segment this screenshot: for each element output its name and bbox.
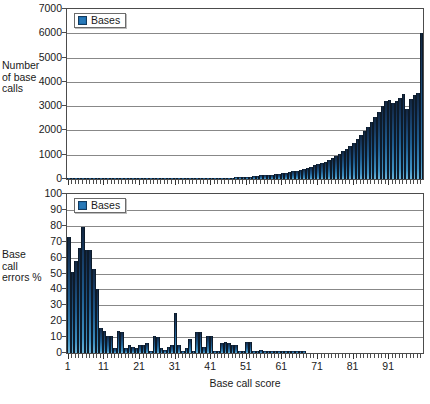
x-axis-tick-mark [363, 354, 364, 358]
y-axis-tick-labels-bottom: 0102030405060708090100 [28, 193, 62, 354]
x-axis-tick-mark [239, 354, 240, 358]
x-axis-tick-mark [271, 180, 272, 184]
x-axis-tick-mark [253, 180, 254, 184]
x-axis-tick-mark [96, 180, 97, 184]
x-axis-ticks-bottom [66, 354, 424, 359]
x-axis-tick-mark [121, 354, 122, 358]
legend-swatch-icon-top [78, 16, 87, 25]
x-axis-tick-mark [260, 180, 261, 184]
y-axis-tick-mark [62, 8, 66, 9]
x-axis-tick-mark [360, 354, 361, 358]
x-axis-tick-mark [292, 354, 293, 358]
x-axis-tick-mark [378, 180, 379, 184]
plot-area-base-call-errors [66, 193, 424, 354]
x-axis-tick-mark [381, 354, 382, 358]
x-axis-tick-label: 91 [382, 360, 394, 372]
y-axis-tick-mark [62, 304, 66, 305]
x-axis-tick-mark [299, 354, 300, 358]
x-axis-tick-mark [417, 180, 418, 184]
x-axis-tick-mark [303, 180, 304, 184]
y-axis-tick-mark [62, 81, 66, 82]
x-axis-tick-mark [146, 354, 147, 358]
x-axis-tick-mark [353, 180, 354, 185]
y-axis-tick-label: 60 [50, 252, 62, 263]
y-axis-tick-mark [62, 352, 66, 353]
x-axis-tick-mark [388, 354, 389, 359]
x-axis-tick-mark [214, 180, 215, 184]
x-axis-tick-mark [114, 180, 115, 184]
x-axis-tick-mark [217, 354, 218, 358]
x-axis-tick-mark [289, 180, 290, 184]
x-axis-tick-mark [228, 180, 229, 184]
x-axis-tick-mark [281, 180, 282, 185]
bar-series-base-call-errors [67, 194, 423, 353]
y-axis-tick-mark [62, 105, 66, 106]
x-axis-tick-mark [167, 180, 168, 184]
x-axis-tick-mark [296, 180, 297, 184]
y-axis-tick-labels-top: 01000200030004000500060007000 [28, 8, 62, 180]
x-axis-tick-mark [139, 354, 140, 359]
x-axis-tick-mark [367, 354, 368, 358]
x-axis-tick-labels: 1112131415161718191 [66, 360, 424, 374]
legend-bottom: Bases [74, 198, 126, 213]
x-axis-tick-mark [388, 180, 389, 185]
x-axis-tick-mark [96, 354, 97, 358]
x-axis-tick-mark [378, 354, 379, 358]
x-axis-tick-mark [143, 354, 144, 358]
x-axis-tick-mark [335, 354, 336, 358]
y-axis-tick-mark [62, 273, 66, 274]
bar [210, 336, 214, 353]
x-axis-tick-mark [256, 354, 257, 358]
x-axis-tick-mark [331, 354, 332, 358]
x-axis-tick-mark [118, 180, 119, 184]
x-axis-tick-mark [192, 180, 193, 184]
x-axis-tick-mark [68, 180, 69, 185]
legend-label-bottom: Bases [91, 200, 120, 211]
x-axis-tick-mark [345, 354, 346, 358]
x-axis-tick-mark [86, 180, 87, 184]
x-axis-tick-mark [103, 354, 104, 359]
x-axis-tick-mark [210, 180, 211, 185]
x-axis-tick-mark [338, 180, 339, 184]
x-axis-tick-mark [107, 354, 108, 358]
y-axis-tick-label: 7000 [39, 3, 62, 14]
y-axis-tick-label: 1000 [39, 149, 62, 160]
y-axis-tick-label: 90 [50, 204, 62, 215]
x-axis-tick-mark [420, 354, 421, 358]
x-axis-tick-mark [132, 354, 133, 358]
y-axis-tick-mark [62, 225, 66, 226]
x-axis-tick-mark [246, 354, 247, 359]
x-axis-tick-mark [299, 180, 300, 184]
x-axis-tick-mark [210, 354, 211, 359]
x-axis-tick-mark [310, 180, 311, 184]
y-axis-tick-mark [62, 209, 66, 210]
x-axis-tick-mark [417, 354, 418, 358]
x-axis-tick-mark [135, 180, 136, 184]
x-axis-tick-mark [86, 354, 87, 358]
chart-panel-base-call-errors: Base call errors % 010203040506070809010… [0, 187, 430, 404]
x-axis-tick-mark [338, 354, 339, 358]
x-axis-tick-mark [182, 354, 183, 358]
x-axis-tick-mark [324, 354, 325, 358]
x-axis-tick-mark [143, 180, 144, 184]
y-axis-tick-mark [62, 320, 66, 321]
x-axis-tick-mark [82, 180, 83, 184]
x-axis-tick-mark [370, 354, 371, 358]
x-axis-tick-mark [370, 180, 371, 184]
x-axis-tick-mark [89, 354, 90, 358]
x-axis-tick-mark [68, 354, 69, 359]
x-axis-tick-mark [157, 180, 158, 184]
x-axis-tick-mark [374, 180, 375, 184]
y-axis-tick-mark [62, 154, 66, 155]
y-axis-tick-label: 50 [50, 268, 62, 279]
x-axis-tick-mark [324, 180, 325, 184]
y-axis-tick-label: 30 [50, 299, 62, 310]
y-axis-tick-mark [62, 241, 66, 242]
x-axis-tick-mark [114, 354, 115, 358]
x-axis-tick-mark [342, 180, 343, 184]
legend-label-top: Bases [91, 15, 120, 26]
x-axis-tick-mark [306, 354, 307, 358]
x-axis-tick-mark [200, 180, 201, 184]
y-axis-tick-mark [62, 288, 66, 289]
x-axis-tick-mark [317, 180, 318, 185]
